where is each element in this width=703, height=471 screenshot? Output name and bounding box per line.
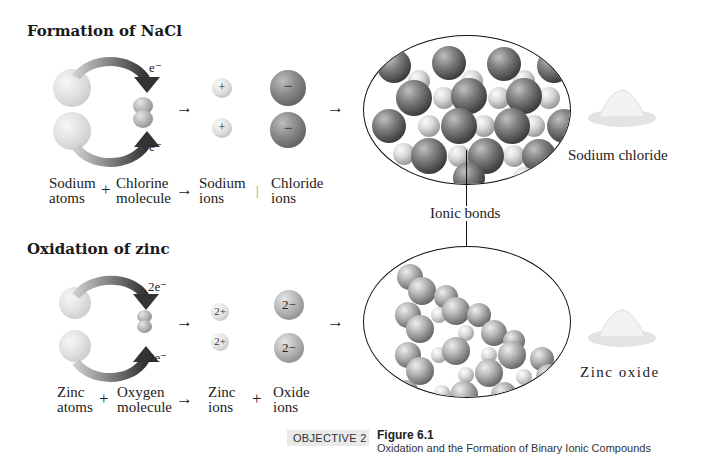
zinc-ion: 2+ [211,333,229,351]
electron-label-bottom: e⁻ [149,139,162,155]
zinc-ion: 2+ [211,303,229,321]
reaction-arrow: → [176,180,193,200]
plus-sign: + [252,389,262,409]
ionic-bonds-label: Ionic bonds [428,206,502,221]
sodium-ion: + [212,78,232,98]
chloride-ion: − [270,70,306,106]
sodium-chloride-label: Sodium chloride [568,148,668,163]
oxygen-atom [137,320,152,333]
zno-lattice-view [363,246,571,398]
label-chlorine-molecule: Chlorine molecule [116,176,171,206]
label-chloride-ions: Chloride ions [271,176,324,206]
reaction-arrow: → [327,98,344,118]
label-oxide-ions: Oxide ions [273,385,310,415]
zinc-oxide-label: Zinc oxide [580,365,660,380]
label-sodium-ions: Sodium ions [199,176,246,206]
plus-sign: | [256,183,259,199]
nacl-crystal-lattice-icon [364,36,570,184]
reaction-arrow: → [176,389,193,409]
oxide-ion: 2− [274,333,304,363]
label-sodium-atoms: Sodium atoms [49,176,96,206]
reaction-arrow: → [176,98,193,118]
figure-caption: Oxidation and the Formation of Binary Io… [377,442,651,454]
electron-label-top: 2e⁻ [148,279,167,295]
label-oxygen-molecule: Oxygen molecule [117,385,172,415]
sodium-ion: + [212,118,232,138]
zinc-oxide-sample-icon [585,305,660,350]
plus-sign: + [99,389,109,409]
objective-badge: OBJECTIVE 2 [287,430,369,446]
plus-sign: + [101,180,111,200]
label-zinc-atoms: Zinc atoms [57,385,93,415]
nacl-section-title: Formation of NaCl [27,22,182,40]
zinc-oxide-crystal-lattice-icon [364,247,570,397]
reaction-arrow: → [327,312,344,332]
zno-section-title: Oxidation of zinc [27,240,170,258]
electron-label-bottom: 2e⁻ [148,350,167,366]
figure-number: Figure 6.1 [377,428,434,442]
sodium-chloride-sample-icon [585,85,660,130]
chlorine-atom [133,110,153,128]
electron-label-top: e⁻ [149,60,162,76]
oxide-ion: 2− [274,290,304,320]
nacl-lattice-view [363,35,571,185]
label-zinc-ions: Zinc ions [208,385,236,415]
chloride-ion: − [270,112,306,148]
reaction-arrow: → [176,312,193,332]
